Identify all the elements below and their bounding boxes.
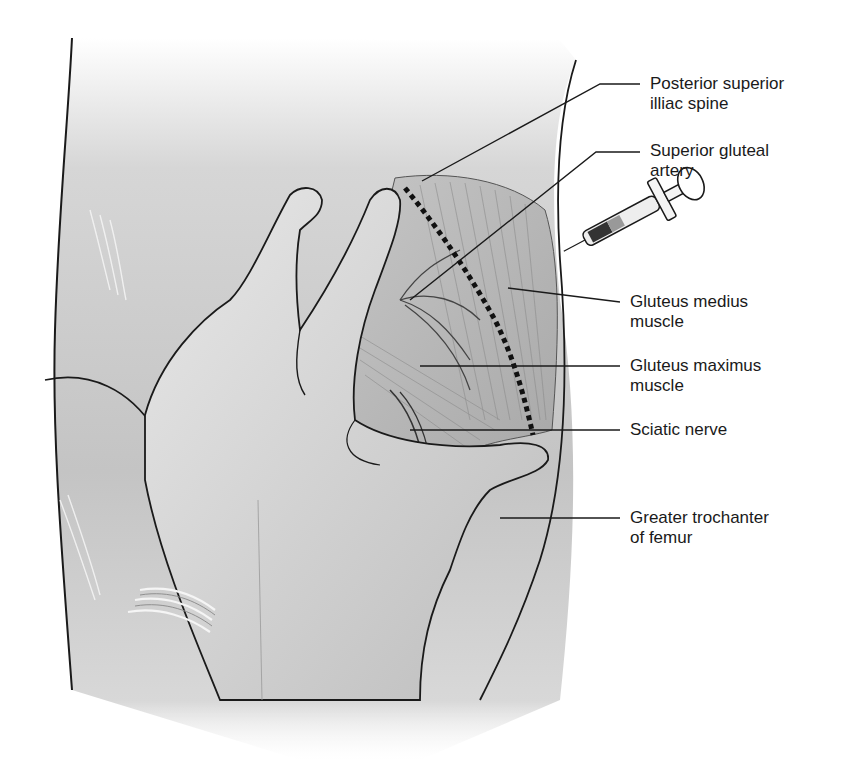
label-gluteus-maximus-muscle: Gluteus maximus muscle <box>630 356 761 396</box>
label-greater-trochanter-of-femur: Greater trochanter of femur <box>630 508 769 548</box>
label-posterior-superior-iliac-spine: Posterior superior illiac spine <box>650 74 784 114</box>
label-line: muscle <box>630 312 748 332</box>
label-line: Gluteus maximus <box>630 356 761 376</box>
label-superior-gluteal-artery: Superior gluteal artery <box>650 141 769 181</box>
label-line: Superior gluteal <box>650 141 769 161</box>
label-line: illiac spine <box>650 94 784 114</box>
label-sciatic-nerve: Sciatic nerve <box>630 420 727 440</box>
label-line: artery <box>650 161 769 181</box>
label-gluteus-medius-muscle: Gluteus medius muscle <box>630 292 748 332</box>
label-line: Greater trochanter <box>630 508 769 528</box>
label-line: of femur <box>630 528 769 548</box>
label-line: Posterior superior <box>650 74 784 94</box>
label-line: Sciatic nerve <box>630 420 727 440</box>
label-line: Gluteus medius <box>630 292 748 312</box>
label-line: muscle <box>630 376 761 396</box>
